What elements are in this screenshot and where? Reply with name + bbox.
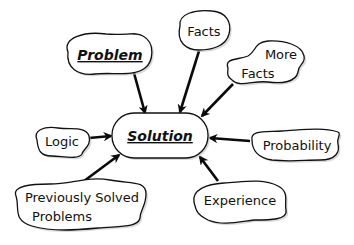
arrow-experience-to-solution <box>200 157 218 181</box>
previously-solved-line2: Problems <box>32 209 92 224</box>
probability-label: Probability <box>263 138 332 153</box>
node-facts: Facts <box>179 11 232 52</box>
experience-label: Experience <box>204 193 277 208</box>
problem-label: Problem <box>77 47 142 63</box>
arrow-logic-to-solution <box>89 136 111 138</box>
node-more-facts: More Facts <box>227 41 306 86</box>
previously-solved-line1: Previously Solved <box>25 190 139 205</box>
concept-map-diagram: Problem Facts More Facts Logic Solution … <box>0 0 354 245</box>
arrow-facts-to-solution <box>180 51 199 112</box>
more-facts-line2: Facts <box>241 66 274 81</box>
logic-label: Logic <box>45 134 79 149</box>
arrow-more-facts-to-solution <box>202 84 233 116</box>
solution-label: Solution <box>127 128 193 144</box>
more-facts-line1: More <box>265 47 297 62</box>
node-solution: Solution <box>112 113 210 160</box>
node-previously-solved-problems: Previously Solved Problems <box>15 179 148 232</box>
node-problem: Problem <box>67 33 154 76</box>
facts-label: Facts <box>187 24 220 39</box>
arrow-problem-to-solution <box>134 73 145 113</box>
node-probability: Probability <box>252 129 342 163</box>
arrow-probability-to-solution <box>210 138 250 141</box>
node-logic: Logic <box>36 128 91 160</box>
node-experience: Experience <box>194 181 288 225</box>
